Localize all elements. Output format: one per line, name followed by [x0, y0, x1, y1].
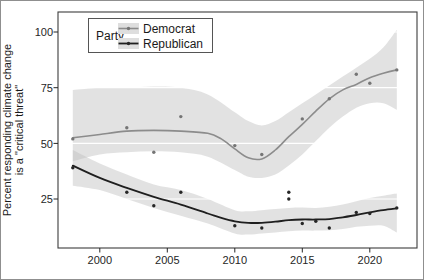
- republican-point: [301, 222, 304, 225]
- democrat-point: [368, 82, 371, 85]
- republican-point: [355, 211, 358, 214]
- republican-point: [233, 224, 236, 227]
- x-tick-label-2010: 2010: [223, 254, 247, 266]
- republican-point: [152, 204, 155, 207]
- legend: Party Democrat Republican: [89, 19, 213, 53]
- democrat-point: [301, 117, 304, 120]
- figure: 100 75 50 25 2000 2005 2010 2015 2020 Pe…: [0, 0, 424, 280]
- y-tick-label-100: 100: [35, 26, 53, 38]
- democrat-point: [152, 151, 155, 154]
- republican-point: [328, 226, 331, 229]
- democrat-point: [233, 144, 236, 147]
- legend-swatch-point-republican: [127, 42, 130, 45]
- y-tick-label-25: 25: [41, 193, 53, 205]
- x-tick-label-2005: 2005: [155, 254, 179, 266]
- y-tick-label-75: 75: [41, 82, 53, 94]
- democrat-point: [179, 115, 182, 118]
- y-axis-title-line-2: is a "critical threat": [13, 85, 25, 175]
- republican-point: [71, 166, 74, 169]
- republican-point: [125, 191, 128, 194]
- republican-point: [179, 191, 182, 194]
- democrat-point: [395, 68, 398, 71]
- democrat-point: [328, 97, 331, 100]
- democrat-point: [71, 137, 74, 140]
- democrat-point: [125, 126, 128, 129]
- legend-label-republican: Republican: [143, 37, 203, 51]
- climate-threat-party-chart: 100 75 50 25 2000 2005 2010 2015 2020 Pe…: [0, 0, 424, 280]
- y-axis-title-line-1: Percent responding climate change: [1, 44, 13, 216]
- republican-point: [368, 212, 371, 215]
- x-tick-label-2000: 2000: [88, 254, 112, 266]
- x-tick-label-2015: 2015: [290, 254, 314, 266]
- y-tick-label-50: 50: [41, 138, 53, 150]
- democrat-point: [260, 153, 263, 156]
- legend-swatch-point-democrat: [127, 27, 130, 30]
- republican-point: [287, 197, 290, 200]
- democrat-point: [355, 73, 358, 76]
- republican-point: [395, 206, 398, 209]
- republican-point: [314, 220, 317, 223]
- republican-point: [287, 191, 290, 194]
- x-tick-label-2020: 2020: [358, 254, 382, 266]
- legend-label-democrat: Democrat: [143, 22, 196, 36]
- republican-point: [260, 226, 263, 229]
